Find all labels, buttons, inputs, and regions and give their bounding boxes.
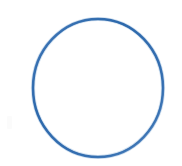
shape-layer xyxy=(0,0,182,166)
drawing-canvas xyxy=(0,0,182,166)
circle-outline-svg xyxy=(0,0,182,166)
